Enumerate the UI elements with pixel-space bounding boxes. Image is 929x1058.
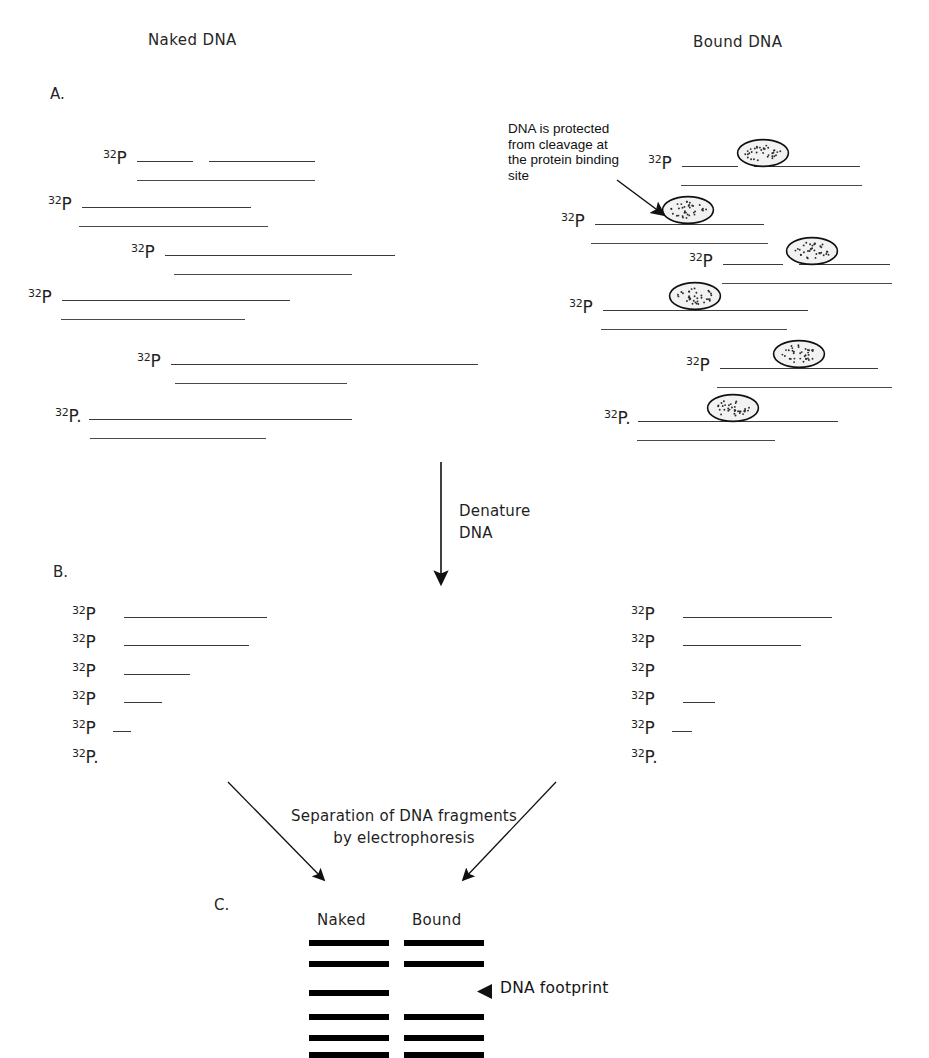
panel-a-bound-row-1-top-strand-left — [682, 166, 738, 167]
panel-a-bound-row-6-bottom-strand — [637, 440, 775, 441]
panel-a-naked-row-2-top-strand-left — [82, 207, 251, 208]
panel-b-bound-fragment-5-isotope-label: 32P — [631, 718, 655, 738]
figure-canvas: Naked DNA Bound DNA A. B. C. DNA is prot… — [0, 0, 929, 1058]
panel-a-bound-row-5-protein-blob — [772, 339, 826, 369]
step-label-separation: Separation of DNA fragments by electroph… — [254, 805, 554, 849]
panel-b-naked-fragment-3-strand — [124, 674, 190, 675]
protection-note: DNA is protected from cleavage at the pr… — [508, 121, 653, 183]
panel-b-naked-fragment-5-isotope-label: 32P — [72, 718, 96, 738]
panel-b-naked-fragment-1-strand — [124, 617, 267, 618]
gel-band-naked-2 — [309, 961, 389, 967]
panel-b-bound-fragment-6-isotope-label: 32P. — [631, 747, 658, 767]
panel-a-bound-row-3-bottom-strand — [722, 283, 892, 284]
panel-a-naked-row-5-isotope-label: 32P — [137, 351, 161, 371]
panel-b-bound-fragment-4-strand — [683, 702, 715, 703]
gel-band-bound-1 — [404, 940, 484, 946]
panel-letter-b: B. — [53, 563, 68, 581]
panel-a-bound-row-4-isotope-label: 32P — [569, 297, 593, 317]
panel-a-naked-row-4-isotope-label: 32P — [28, 287, 52, 307]
panel-b-naked-fragment-5-strand — [113, 731, 131, 732]
panel-a-naked-row-2-bottom-strand — [79, 226, 268, 227]
panel-a-bound-row-1-protein-blob — [736, 138, 790, 168]
panel-a-bound-row-2-bottom-strand — [591, 243, 768, 244]
step-label-denature: Denature DNA — [459, 500, 531, 544]
panel-a-naked-row-1-top-strand-right — [209, 161, 315, 162]
gel-band-bound-3 — [404, 1014, 484, 1020]
panel-a-naked-row-6-isotope-label: 32P. — [55, 406, 82, 426]
panel-b-bound-fragment-3-isotope-label: 32P — [631, 661, 655, 681]
dna-footprint-arrowhead — [477, 984, 492, 999]
panel-b-naked-fragment-6-isotope-label: 32P. — [72, 747, 99, 767]
panel-a-naked-row-6-bottom-strand — [90, 438, 266, 439]
panel-a-naked-row-1-isotope-label: 32P — [103, 148, 127, 168]
gel-band-bound-4 — [404, 1035, 484, 1041]
panel-a-bound-row-2-protein-blob — [661, 195, 715, 225]
column-title-naked-dna: Naked DNA — [148, 31, 237, 49]
dna-footprint-label: DNA footprint — [500, 979, 609, 997]
protection-note-arrow — [617, 180, 664, 215]
gel-lane-label-bound: Bound — [412, 911, 462, 929]
panel-letter-c: C. — [214, 896, 229, 914]
panel-a-naked-row-4-top-strand-left — [62, 300, 290, 301]
panel-a-bound-row-1-isotope-label: 32P — [648, 153, 672, 173]
panel-a-naked-row-3-bottom-strand — [174, 274, 352, 275]
panel-a-naked-row-2-isotope-label: 32P — [48, 194, 72, 214]
gel-band-naked-4 — [309, 1014, 389, 1020]
panel-b-naked-fragment-3-isotope-label: 32P — [72, 661, 96, 681]
panel-a-naked-row-3-top-strand-left — [165, 255, 395, 256]
gel-lane-label-naked: Naked — [317, 911, 366, 929]
gel-band-naked-1 — [309, 940, 389, 946]
panel-b-naked-fragment-2-strand — [124, 645, 249, 646]
panel-a-bound-row-4-bottom-strand — [601, 329, 787, 330]
panel-a-bound-row-6-isotope-label: 32P. — [604, 408, 631, 428]
panel-a-bound-row-5-isotope-label: 32P — [686, 355, 710, 375]
panel-a-bound-row-3-isotope-label: 32P — [689, 251, 713, 271]
panel-a-bound-row-3-top-strand-left — [723, 264, 783, 265]
panel-b-bound-fragment-2-strand — [683, 645, 801, 646]
panel-a-naked-row-5-top-strand-left — [171, 364, 478, 365]
panel-b-bound-fragment-5-strand — [672, 731, 692, 732]
panel-b-naked-fragment-2-isotope-label: 32P — [72, 632, 96, 652]
panel-b-naked-fragment-4-strand — [124, 702, 162, 703]
panel-letter-a: A. — [50, 85, 65, 103]
gel-band-naked-3 — [309, 990, 389, 996]
column-title-bound-dna: Bound DNA — [693, 33, 782, 51]
panel-a-naked-row-1-bottom-strand — [137, 180, 315, 181]
panel-b-bound-fragment-1-isotope-label: 32P — [631, 604, 655, 624]
panel-a-naked-row-5-bottom-strand — [175, 383, 347, 384]
panel-a-bound-row-2-isotope-label: 32P — [561, 211, 585, 231]
gel-band-naked-6 — [309, 1052, 389, 1058]
gel-band-bound-5 — [404, 1052, 484, 1058]
panel-a-bound-row-5-bottom-strand — [717, 387, 892, 388]
panel-b-bound-fragment-4-isotope-label: 32P — [631, 689, 655, 709]
panel-a-naked-row-6-top-strand-left — [89, 419, 352, 420]
panel-a-naked-row-4-bottom-strand — [61, 319, 245, 320]
panel-a-naked-row-1-top-strand-left — [137, 161, 193, 162]
gel-band-naked-5 — [309, 1035, 389, 1041]
panel-a-bound-row-3-protein-blob — [785, 236, 839, 266]
panel-b-bound-fragment-2-isotope-label: 32P — [631, 632, 655, 652]
panel-a-bound-row-1-bottom-strand — [681, 185, 862, 186]
panel-b-naked-fragment-4-isotope-label: 32P — [72, 689, 96, 709]
panel-a-bound-row-6-protein-blob — [706, 393, 760, 423]
gel-band-bound-2 — [404, 961, 484, 967]
panel-a-bound-row-4-protein-blob — [668, 281, 722, 311]
panel-a-naked-row-3-isotope-label: 32P — [131, 242, 155, 262]
panel-b-bound-fragment-1-strand — [683, 617, 832, 618]
panel-b-naked-fragment-1-isotope-label: 32P — [72, 604, 96, 624]
